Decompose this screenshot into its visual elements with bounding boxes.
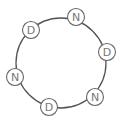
node-label: N — [91, 91, 99, 104]
ring-diagram: DNDNDN — [0, 0, 123, 127]
node-d: D — [23, 22, 40, 39]
node-label: N — [72, 11, 80, 24]
node-label: D — [45, 101, 53, 114]
node-d: D — [99, 44, 116, 61]
node-n: N — [68, 9, 85, 26]
node-label: D — [103, 46, 111, 59]
node-label: N — [11, 71, 19, 84]
node-n: N — [7, 69, 24, 86]
node-n: N — [87, 89, 104, 106]
node-d: D — [41, 99, 58, 116]
node-label: D — [27, 24, 35, 37]
